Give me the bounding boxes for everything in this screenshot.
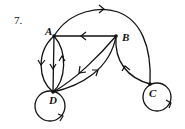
label-A: A xyxy=(44,25,52,37)
edge-A-C xyxy=(54,10,150,84)
loop-C xyxy=(143,83,171,111)
edge-A-D-straight xyxy=(53,36,54,92)
label-C: C xyxy=(149,87,157,99)
edge-C-B xyxy=(116,36,150,84)
directed-graph-figure: 7. A B C D xyxy=(0,0,185,129)
node-B xyxy=(114,34,118,38)
node-A xyxy=(52,34,56,38)
label-B: B xyxy=(121,31,129,43)
problem-number: 7. xyxy=(14,14,23,26)
edge-A-D-left xyxy=(41,36,54,92)
arrow-D-A-right xyxy=(59,56,65,61)
edge-D-B xyxy=(53,36,116,92)
node-C xyxy=(148,82,152,86)
edge-D-A-right xyxy=(53,36,64,92)
edge-B-D xyxy=(53,36,116,92)
label-D: D xyxy=(48,94,57,106)
